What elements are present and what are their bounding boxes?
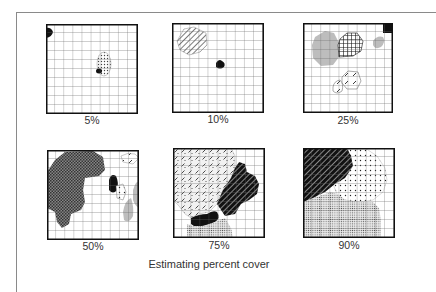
panel-label: 75%	[169, 239, 269, 251]
panel-10-percent	[172, 23, 264, 113]
grid-quadrat	[172, 23, 264, 113]
grid-quadrat	[47, 150, 139, 240]
panel-label: 50%	[43, 240, 143, 252]
panel-75-percent	[173, 148, 265, 238]
panel-50-percent	[47, 150, 139, 240]
grid-quadrat	[303, 148, 395, 238]
panel-label: 25%	[298, 114, 398, 126]
grid-quadrat	[303, 23, 393, 113]
panel-label: 5%	[42, 114, 142, 126]
grid-quadrat	[46, 24, 138, 114]
panel-25-percent	[303, 23, 393, 113]
grid-quadrat	[173, 148, 265, 238]
panel-5-percent	[46, 24, 138, 114]
panel-label: 90%	[299, 239, 399, 251]
panel-90-percent	[303, 148, 395, 238]
panel-label: 10%	[168, 113, 268, 125]
figure-caption: Estimating percent cover	[0, 258, 418, 270]
